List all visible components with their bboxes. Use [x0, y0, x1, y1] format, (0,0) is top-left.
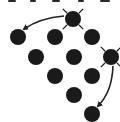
- dot-r1c2: [47, 29, 63, 45]
- dot-circle: [84, 68, 100, 84]
- dot-circle: [28, 49, 44, 65]
- burst-ray: [79, 25, 83, 29]
- arrow-right-to-bottom-arrow: [98, 66, 113, 106]
- dot-circle: [47, 29, 63, 45]
- dot-r3c1: [47, 68, 63, 84]
- dot-bottom: [84, 106, 100, 122]
- dot-circle: [66, 87, 82, 103]
- burst-ray: [63, 25, 67, 29]
- dots-group: [10, 9, 120, 122]
- burst-ray: [117, 63, 120, 67]
- burst-dot-burst-right: [101, 47, 120, 67]
- burst-ray: [101, 63, 105, 67]
- burst-ray: [79, 9, 83, 13]
- dot-circle: [65, 11, 81, 27]
- dot-circle: [84, 106, 100, 122]
- burst-ray: [117, 47, 120, 51]
- dot-circle: [47, 68, 63, 84]
- dot-circle: [103, 49, 119, 65]
- dot-r2c2: [66, 49, 82, 65]
- dot-r3c2: [84, 68, 100, 84]
- dot-r2c1: [28, 49, 44, 65]
- burst-ray: [63, 9, 67, 13]
- dot-circle: [84, 29, 100, 45]
- dot-circle: [66, 49, 82, 65]
- dot-diagram: [0, 0, 120, 122]
- burst-ray: [101, 47, 105, 51]
- burst-dot-burst-top: [63, 9, 83, 29]
- dot-r1c3: [84, 29, 100, 45]
- dot-circle: [10, 29, 26, 45]
- dot-r4c1: [66, 87, 82, 103]
- dot-r1c1: [10, 29, 26, 45]
- arrow-top-to-left-arrow: [24, 16, 64, 29]
